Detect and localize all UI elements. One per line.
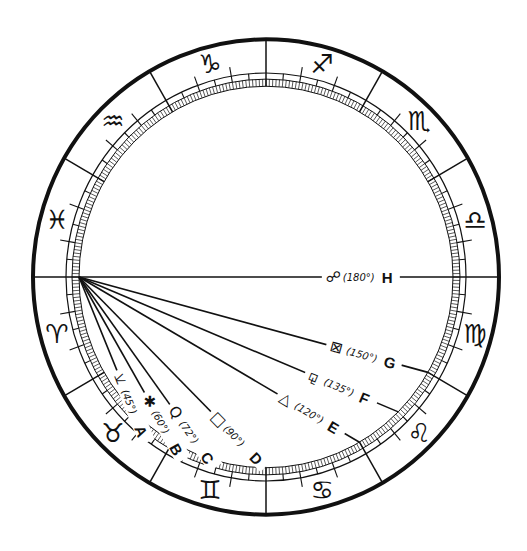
- degree-rung: [425, 172, 431, 176]
- degree-rung: [311, 462, 313, 469]
- degree-rung: [76, 239, 83, 240]
- degree-rung: [160, 111, 164, 117]
- degree-rung: [80, 222, 87, 224]
- degree-rung: [348, 99, 351, 105]
- degree-rung: [409, 400, 414, 405]
- degree-rung: [131, 135, 136, 140]
- five-degree-tick: [67, 294, 73, 295]
- degree-rung: [282, 467, 283, 474]
- degree-rung: [419, 386, 425, 390]
- degree-rung: [318, 87, 320, 94]
- degree-rung: [357, 444, 360, 450]
- degree-rung: [86, 203, 92, 206]
- degree-rung: [365, 109, 369, 115]
- degree-rung: [425, 378, 431, 382]
- degree-rung: [330, 456, 332, 463]
- degree-rung: [321, 459, 323, 466]
- degree-rung: [419, 164, 425, 168]
- degree-rung: [203, 90, 205, 97]
- cusp-line-scorpio: [428, 158, 468, 181]
- five-degree-tick: [85, 361, 90, 364]
- degree-rung: [398, 137, 403, 142]
- five-degree-tick: [425, 160, 430, 164]
- five-degree-tick: [85, 191, 90, 194]
- ten-degree-tick: [332, 77, 337, 91]
- degree-rung: [379, 429, 383, 435]
- ten-degree-tick: [106, 140, 117, 150]
- degree-rung: [295, 82, 296, 89]
- degree-rung: [448, 232, 455, 234]
- degree-rung: [74, 304, 81, 305]
- degree-rung: [101, 172, 107, 176]
- degree-rung: [239, 466, 240, 473]
- degree-rung: [407, 402, 412, 407]
- sign-glyph-capricorn: ♑: [198, 49, 221, 79]
- five-degree-tick: [453, 224, 459, 226]
- degree-rung: [452, 297, 459, 298]
- degree-rung: [163, 109, 167, 115]
- degree-rung: [444, 336, 451, 338]
- aspect-letter: H: [382, 269, 393, 286]
- degree-rung: [73, 300, 80, 301]
- sign-glyph-gemini: ♊: [198, 475, 221, 505]
- degree-rung: [345, 98, 348, 104]
- aspect-label-f: ⚼(135°)F: [302, 364, 381, 411]
- cusp-line-pisces: [64, 158, 104, 181]
- degree-rung: [381, 427, 385, 433]
- degree-rung: [77, 232, 84, 234]
- cusp-line-sagittarius: [360, 71, 383, 112]
- degree-rung: [246, 467, 247, 474]
- aspect-label-e: △(120°)E: [273, 386, 349, 441]
- five-degree-tick: [377, 110, 380, 115]
- degree-rung: [101, 378, 107, 382]
- degree-rung: [371, 113, 375, 119]
- degree-rung: [342, 451, 345, 458]
- degree-rung: [415, 158, 421, 162]
- degree-rung: [423, 381, 429, 385]
- degree-rung: [209, 88, 211, 95]
- degree-rung: [431, 184, 437, 187]
- degree-rung: [85, 206, 92, 209]
- degree-rung: [141, 125, 145, 130]
- degree-rung: [389, 421, 394, 426]
- five-degree-tick: [102, 160, 107, 164]
- ten-degree-tick: [60, 240, 75, 243]
- ten-degree-tick: [60, 311, 75, 314]
- five-degree-tick: [73, 224, 79, 226]
- degree-rung: [292, 81, 293, 88]
- degree-rung: [321, 88, 323, 95]
- degree-rung: [342, 96, 345, 103]
- degree-rung: [79, 326, 86, 328]
- degree-rung: [236, 465, 237, 472]
- five-degree-tick: [459, 294, 465, 295]
- degree-rung: [175, 102, 178, 108]
- degree-rung: [172, 104, 175, 110]
- zodiac-wheel: ♈♉♊♋♌♍♎♏♐♑♒♓ ⚺(45°)A✱(60°)BQ(72°)C□(90°)…: [0, 0, 527, 551]
- degree-rung: [401, 140, 406, 145]
- ten-degree-tick: [300, 472, 303, 487]
- degree-rung: [439, 203, 445, 206]
- degree-rung: [394, 132, 399, 137]
- degree-rung: [421, 384, 427, 388]
- degree-rung: [398, 412, 403, 417]
- degree-rung: [403, 407, 408, 412]
- degree-rung: [81, 336, 88, 338]
- degree-rung: [86, 348, 92, 351]
- degree-rung: [166, 107, 170, 113]
- degree-rung: [327, 457, 329, 464]
- degree-rung: [295, 465, 296, 472]
- degree-rung: [229, 464, 230, 471]
- degree-rung: [155, 433, 159, 439]
- degree-rung: [336, 454, 339, 461]
- degree-rung: [371, 435, 375, 441]
- sign-glyph-pisces: ♓: [45, 205, 68, 235]
- degree-rung: [213, 87, 215, 94]
- degree-rung: [443, 339, 450, 341]
- degree-rung: [87, 200, 93, 203]
- degree-rung: [445, 333, 452, 335]
- degree-rung: [452, 256, 459, 257]
- degree-rung: [386, 125, 390, 130]
- degree-rung: [120, 147, 125, 152]
- ten-degree-tick: [300, 67, 303, 82]
- degree-rung: [117, 150, 122, 155]
